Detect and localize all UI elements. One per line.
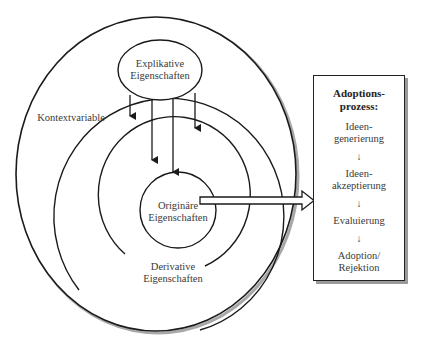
original-line2: Eigenschaften [138,212,218,224]
original-label: Originäre Eigenschaften [138,200,218,224]
context-variable-label: Kontextvariable [36,112,106,124]
process-title: Adoptions- prozess: [314,87,404,113]
explicative-line2: Eigenschaften [118,70,202,82]
step-arrow-icon: ↓ [314,233,404,245]
process-step-evaluation: Evaluierung [314,215,404,227]
process-title-line1: Adoptions- [314,87,404,100]
step1-line1: Ideen- [314,121,404,133]
explicative-line1: Explikative [118,58,202,70]
process-step-adoption-rejection: Adoption/ Rejektion [314,250,404,274]
process-step-idea-generation: Ideen- generierung [314,121,404,145]
step3-line1: Evaluierung [314,215,404,227]
step2-line2: akzeptierung [314,180,404,192]
process-step-idea-acceptance: Ideen- akzeptierung [314,168,404,192]
step4-line1: Adoption/ [314,250,404,262]
adoption-process-box: Adoptions- prozess: Ideen- generierung ↓… [313,75,405,281]
step4-line2: Rejektion [314,262,404,274]
original-line1: Originäre [138,200,218,212]
explicative-label: Explikative Eigenschaften [118,58,202,82]
derivative-line1: Derivative [133,261,213,273]
step1-line2: generierung [314,133,404,145]
step2-line1: Ideen- [314,168,404,180]
context-variable-text: Kontextvariable [37,112,105,123]
step-arrow-icon: ↓ [314,151,404,163]
process-title-line2: prozess: [314,100,404,113]
derivative-line2: Eigenschaften [133,273,213,285]
derivative-label: Derivative Eigenschaften [133,261,213,285]
step-arrow-icon: ↓ [314,198,404,210]
